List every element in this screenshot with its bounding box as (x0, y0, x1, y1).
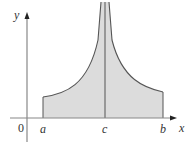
shaded-region (43, 2, 163, 118)
x-axis-arrow-icon (170, 116, 177, 121)
y-axis-label: y (13, 8, 20, 22)
origin-label: 0 (18, 121, 24, 135)
diagram-canvas: y x 0 a c b (0, 0, 188, 142)
x-axis-label: x (178, 121, 185, 135)
point-c-label: c (102, 122, 108, 136)
point-b-label: b (160, 122, 166, 136)
y-axis-arrow-icon (25, 12, 30, 19)
point-a-label: a (40, 122, 46, 136)
